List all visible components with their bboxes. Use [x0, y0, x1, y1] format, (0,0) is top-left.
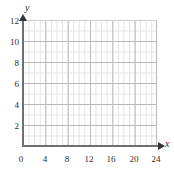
y-tick-label: 8 — [0, 59, 19, 68]
grid-right-edge — [156, 20, 157, 146]
y-tick-label: 10 — [0, 38, 19, 47]
graph-figure: y x 12 10 8 6 4 2 0 4 8 12 16 20 24 — [0, 0, 174, 176]
y-axis-arrow-icon — [19, 14, 27, 21]
x-tick-label: 4 — [35, 155, 55, 164]
grid-top-edge — [23, 20, 157, 21]
major-gridlines — [23, 20, 157, 146]
y-tick-label: 12 — [0, 17, 19, 26]
x-axis-arrow-icon — [158, 142, 165, 150]
y-tick-label: 2 — [0, 122, 19, 131]
x-tick-label: 8 — [57, 155, 77, 164]
y-axis-label: y — [25, 3, 29, 13]
y-axis-line — [22, 20, 24, 147]
x-tick-label: 16 — [101, 155, 121, 164]
x-axis-label: x — [165, 139, 169, 149]
x-tick-label: 20 — [124, 155, 144, 164]
plot-area — [23, 20, 157, 146]
y-tick-label: 4 — [0, 101, 19, 110]
x-tick-label: 24 — [146, 155, 166, 164]
x-tick-label: 12 — [79, 155, 99, 164]
x-axis-line — [22, 145, 160, 147]
y-tick-label: 6 — [0, 80, 19, 89]
x-tick-label: 0 — [11, 155, 31, 164]
